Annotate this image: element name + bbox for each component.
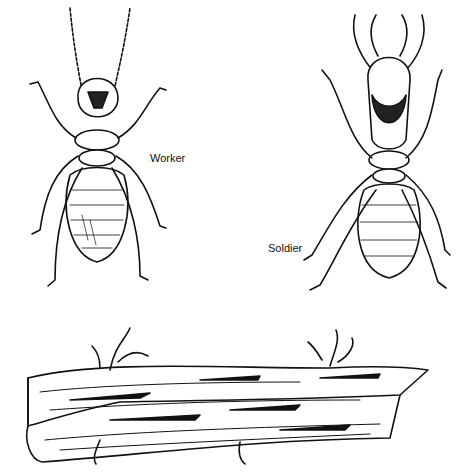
soldier-termite-icon (304, 15, 450, 290)
termite-illustration: Worker Soldier (0, 0, 456, 475)
worker-termite-icon (30, 8, 166, 286)
line-drawing (0, 0, 456, 475)
damaged-wood-icon (27, 328, 428, 464)
worker-label: Worker (150, 152, 185, 164)
soldier-label: Soldier (268, 242, 302, 254)
